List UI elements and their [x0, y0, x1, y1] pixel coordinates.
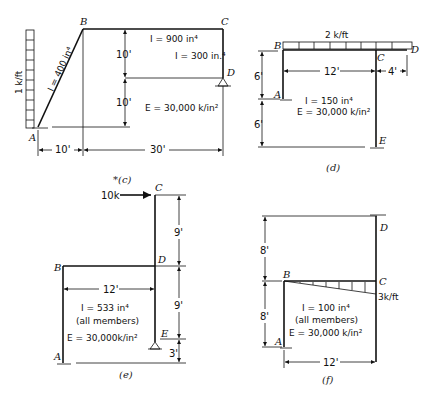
node-D: D [226, 67, 235, 78]
node-B: B [282, 269, 290, 280]
distributed-load-2kft: 2 k/ft [283, 30, 412, 49]
I-AB: I = 400 in⁴ [46, 45, 75, 93]
dim-v1: 8' [260, 245, 269, 256]
node-D: D [379, 222, 388, 233]
E-value: E = 30,000k/in² [67, 333, 138, 343]
members-note: (all members) [76, 316, 139, 326]
E-value: E = 30,000 k/in² [145, 103, 219, 113]
node-B: B [273, 40, 281, 51]
load-label: 2 k/ft [325, 30, 349, 40]
dim-v2: 8' [260, 311, 269, 322]
dim-v2: 9' [174, 300, 183, 311]
dim-v1: 10' [116, 49, 131, 60]
figure-e: 10k 9' 9' 3' 12' C B D E A I = 533 in⁴ (… [53, 182, 187, 380]
node-E: E [160, 328, 169, 339]
node-C: C [379, 276, 387, 287]
caption-e: (e) [119, 369, 133, 380]
E-value: E = 30,000 k/in² [297, 107, 371, 117]
I-value: I = 533 in⁴ [81, 303, 129, 313]
caption-f: (f) [322, 374, 334, 385]
distributed-load-1kft: 1 k/ft [14, 30, 34, 128]
load-label: 3k/ft [378, 292, 399, 302]
figure-f: 3k/ft 8' 8' 12' D B C A I = 100 in⁴ (all… [259, 215, 399, 385]
figure-c: 1 k/ft 10' 10' 10' 30' B C [14, 16, 235, 185]
node-B: B [79, 16, 87, 27]
structural-frames-diagram: 1 k/ft 10' 10' 10' 30' B C [0, 0, 425, 405]
node-D: D [157, 254, 166, 265]
I-CD: I = 300 in.⁴ [175, 51, 226, 61]
node-A: A [28, 132, 36, 143]
dim-v1: 9' [174, 227, 183, 238]
I-BC: I = 900 in⁴ [150, 34, 198, 44]
I-value: I = 100 in⁴ [302, 303, 350, 313]
caption-d: (d) [326, 162, 340, 173]
I-value: I = 150 in⁴ [305, 96, 353, 106]
node-A: A [274, 336, 282, 347]
node-E: E [378, 135, 387, 146]
dim-h1: 12' [323, 357, 338, 368]
node-A: A [53, 351, 61, 362]
pin-support-D [215, 78, 231, 86]
dim-v2: 6' [254, 119, 263, 130]
node-C: C [155, 182, 163, 193]
figure-d: 2 k/ft 6' 6' 12' 4' B D C A E I = 150 in… [254, 30, 419, 173]
dim-h1: 10' [55, 144, 70, 155]
dim-h2: 4' [388, 66, 397, 77]
dim-v3: 3' [169, 348, 178, 359]
members-note: (all members) [295, 315, 358, 325]
node-D: D [410, 44, 419, 55]
node-A: A [273, 89, 281, 100]
node-B: B [53, 262, 61, 273]
load-label: 10k [101, 190, 120, 201]
dim-h1: 12' [324, 66, 339, 77]
dim-v2: 10' [116, 97, 131, 108]
dim-h1: 12' [103, 284, 118, 295]
load-label: 1 k/ft [14, 70, 24, 94]
dim-h2: 30' [150, 144, 165, 155]
node-C: C [377, 52, 385, 63]
dim-v1: 6' [254, 71, 263, 82]
caption-c: *(c) [113, 174, 132, 185]
pin-support-E [148, 342, 162, 349]
node-C: C [221, 16, 229, 27]
E-value: E = 30,000 k/in² [289, 328, 363, 338]
